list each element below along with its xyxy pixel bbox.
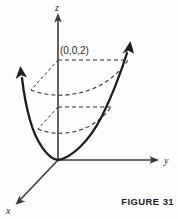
paraboloid-outline-group bbox=[16, 41, 134, 160]
z-axis-label: z bbox=[54, 2, 59, 13]
lower-diagonal-dashed-line bbox=[38, 107, 58, 129]
x-axis-label: x bbox=[5, 205, 11, 216]
y-axis-label: y bbox=[163, 155, 169, 166]
figure-caption: FIGURE 31 bbox=[121, 196, 174, 207]
paraboloid-left-branch bbox=[22, 78, 58, 160]
paraboloid-diagram: z y x (0,0,2) bbox=[0, 0, 178, 219]
y-axis bbox=[58, 156, 159, 164]
x-axis-line bbox=[20, 160, 58, 200]
paraboloid-right-arrowhead bbox=[123, 41, 135, 54]
upper-diagonal-dashed-line bbox=[31, 60, 58, 90]
x-axis bbox=[16, 160, 59, 205]
z-axis bbox=[54, 13, 62, 160]
point-label-002: (0,0,2) bbox=[60, 45, 89, 56]
axes-group bbox=[16, 13, 160, 205]
figure-container: z y x (0,0,2) FIGURE bbox=[0, 0, 178, 219]
